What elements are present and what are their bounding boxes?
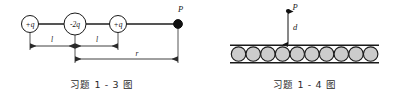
charged-sphere [305, 47, 319, 61]
charged-sphere [275, 47, 289, 61]
charged-sphere [231, 47, 245, 61]
figure-1-4-drawing: P d [203, 0, 406, 76]
dimension-r: r [75, 49, 178, 60]
charge-label-3: +q [114, 20, 123, 29]
sphere-row [231, 47, 378, 61]
distance-label-d: d [293, 22, 298, 32]
field-point-dot [174, 20, 183, 29]
dimension-l-second: l [75, 35, 118, 46]
figure-1-3-drawing: +q -2q +q P [0, 0, 203, 76]
figure-problem-1-3: +q -2q +q P [0, 0, 203, 94]
figure-caption-1-4: 习题 1 - 4 图 [203, 77, 406, 91]
charge-label-1: +q [26, 20, 35, 29]
dimension-label-r: r [136, 49, 139, 58]
dimension-label-l-second: l [96, 35, 98, 44]
dimension-l-first: l [30, 35, 75, 46]
figure-caption-1-3: 习题 1 - 3 图 [0, 77, 203, 91]
charged-sphere [334, 47, 348, 61]
charged-sphere [363, 47, 377, 61]
field-point-label-P: P [291, 2, 297, 12]
charged-sphere [261, 47, 275, 61]
figure-problem-1-4: P d 习题 1 - 4 图 [203, 0, 406, 94]
charged-sphere [290, 47, 304, 61]
figure-pair-container: +q -2q +q P [0, 0, 406, 94]
charge-label-2: -2q [70, 20, 80, 29]
field-point-label-P: P [177, 4, 183, 14]
dimension-label-l-first: l [51, 35, 53, 44]
charged-sphere [349, 47, 363, 61]
charged-sphere [246, 47, 260, 61]
charged-sphere [319, 47, 333, 61]
